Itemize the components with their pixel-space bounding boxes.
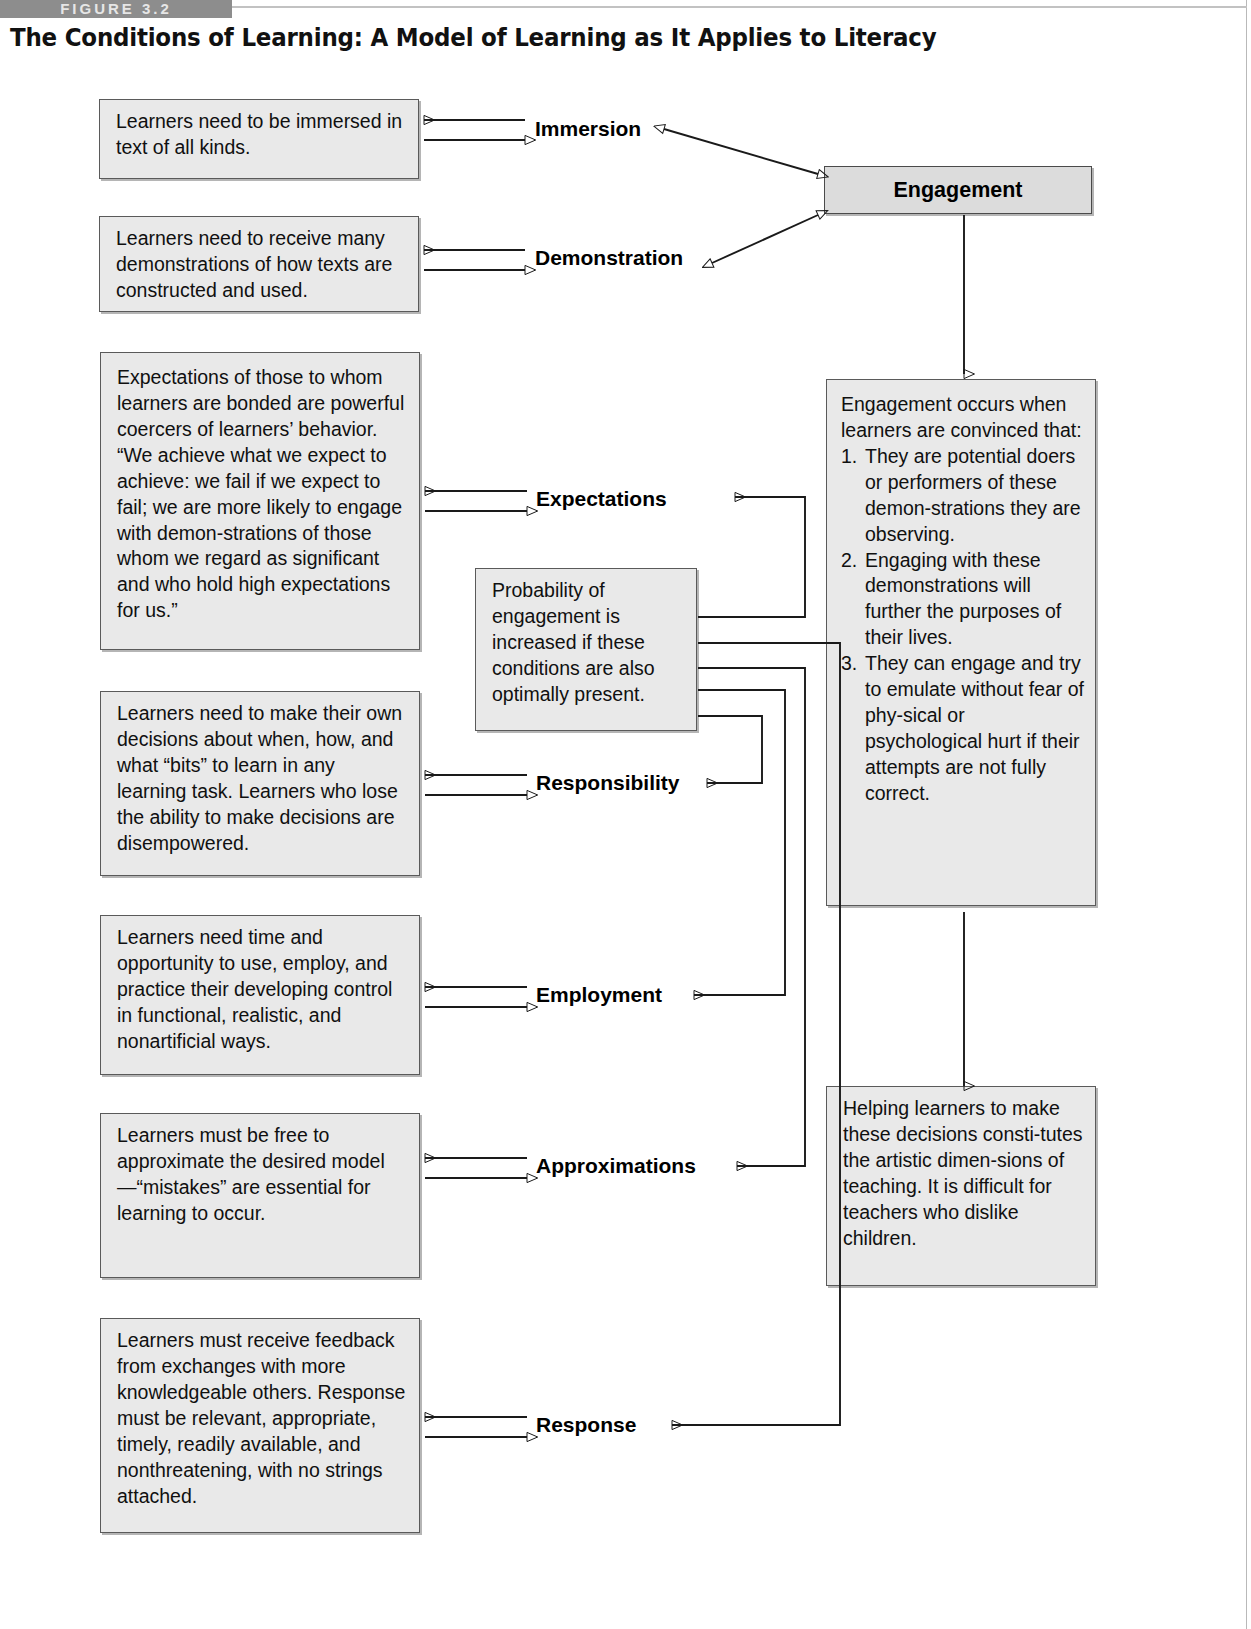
condition-label-employment: Employment (536, 983, 662, 1007)
condition-label-response: Response (536, 1413, 636, 1437)
route-probability-to-employment (694, 690, 785, 995)
arrow-approximations-pair (425, 1158, 527, 1178)
engagement-box: Engagement (824, 166, 1092, 214)
route-probability-to-responsibility (698, 716, 762, 783)
condition-description-responsibility: Learners need to make their own decision… (100, 691, 420, 876)
route-probability-to-expectations (698, 497, 805, 617)
arrow-demonstration-pair (424, 250, 525, 270)
page-frame-top-rule (232, 6, 1247, 8)
condition-description-approximations: Learners must be free to approximate the… (100, 1113, 420, 1278)
arrow-responsibility-pair (425, 775, 527, 795)
figure-title: The Conditions of Learning: A Model of L… (10, 22, 1160, 52)
condition-description-employment: Learners need time and opportunity to us… (100, 915, 420, 1075)
route-probability-to-approximations (698, 668, 805, 1166)
condition-description-demonstration: Learners need to receive many demonstrat… (99, 216, 419, 312)
condition-description-immersion: Learners need to be immersed in text of … (99, 99, 419, 179)
condition-label-demonstration: Demonstration (535, 246, 683, 270)
probability-of-engagement-box: Probability of engagement is increased i… (475, 568, 697, 731)
arrow-immersion-engagement (664, 129, 818, 174)
engagement-detail-intro: Engagement occurs when learners are conv… (841, 392, 1085, 444)
arrow-demonstration-engagement (712, 215, 818, 263)
engagement-detail-item: 2. Engaging with these demonstrations wi… (841, 548, 1085, 652)
condition-label-responsibility: Responsibility (536, 771, 680, 795)
condition-label-expectations: Expectations (536, 487, 667, 511)
figure-page: FIGURE 3.2 The Conditions of Learning: A… (0, 0, 1251, 1629)
engagement-detail-item: 1. They are potential doers or performer… (841, 444, 1085, 548)
list-number: 2. (841, 548, 865, 652)
condition-label-immersion: Immersion (535, 117, 641, 141)
arrow-employment-pair (425, 987, 527, 1007)
engagement-detail-item: 3. They can engage and try to emulate wi… (841, 651, 1085, 807)
list-text: Engaging with these demonstrations will … (865, 548, 1085, 652)
page-frame-right-rule (1246, 0, 1248, 1629)
condition-label-approximations: Approximations (536, 1154, 696, 1178)
arrow-expectations-pair (425, 491, 527, 511)
list-number: 3. (841, 651, 865, 807)
arrow-response-pair (425, 1417, 527, 1437)
condition-description-expectations: Expectations of those to whom learners a… (100, 352, 420, 650)
list-text: They can engage and try to emulate witho… (865, 651, 1085, 807)
list-text: They are potential doers or performers o… (865, 444, 1085, 548)
engagement-detail-list: 1. They are potential doers or performer… (841, 444, 1085, 807)
arrow-immersion-pair (424, 120, 525, 140)
route-probability-to-response (672, 643, 840, 1425)
artistic-dimensions-of-teaching-box: Helping learners to make these decisions… (826, 1086, 1096, 1286)
list-number: 1. (841, 444, 865, 548)
figure-number-tab: FIGURE 3.2 (0, 0, 232, 18)
engagement-detail-box: Engagement occurs when learners are conv… (826, 379, 1096, 906)
condition-description-response: Learners must receive feedback from exch… (100, 1318, 420, 1533)
